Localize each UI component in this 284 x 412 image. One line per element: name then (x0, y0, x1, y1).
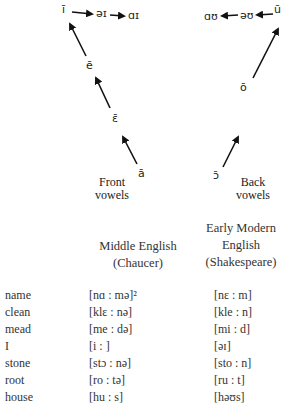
node-open-o-long: ɔ̄ (213, 170, 219, 181)
front-vowels-label: Front vowels (82, 176, 142, 202)
node-u-long: ū (274, 4, 281, 15)
back-vowels-label: Back vowels (228, 176, 278, 202)
node-schwa-u: əʊ (240, 10, 254, 21)
table-row: house [hu : s] [həʊs] (0, 390, 284, 406)
table-row: stone [stɔ : nə] [sto : n] (0, 356, 284, 372)
table-row: clean [klɛ : nə] [kle : n] (0, 305, 284, 321)
node-i-long: ī (62, 4, 65, 15)
table-row: I [i : ] [əɪ] (0, 339, 284, 355)
node-o-long: ō (240, 82, 247, 93)
table-row: name [nɑ : mə]² [nɛ : m] (0, 288, 284, 304)
table-row: mead [me : də] [mi : d] (0, 322, 284, 338)
node-open-e-long: ɛ̄ (112, 113, 118, 124)
node-schwa-i: əɪ (96, 8, 107, 19)
header-middle-english: Middle English (Chaucer) (78, 238, 198, 272)
node-a-i: ɑɪ (128, 10, 139, 21)
node-a-u: ɑʊ (204, 11, 218, 22)
node-e-long: ē (86, 60, 93, 71)
table-row: root [ro : tə] [ru : t] (0, 373, 284, 389)
header-early-modern-english: Early Modern English (Shakespeare) (198, 220, 284, 271)
